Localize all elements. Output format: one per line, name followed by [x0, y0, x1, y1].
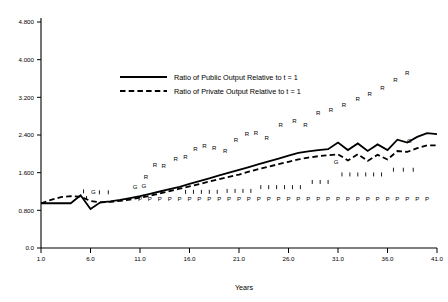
marker-p: P [227, 195, 231, 202]
marker-p: P [237, 195, 241, 202]
marker-r: R [173, 155, 178, 162]
chart-container: 0.00.8001.6002.4003.2004.0004.800 1.06.0… [0, 0, 448, 302]
marker-r: R [405, 69, 410, 76]
marker-g: G [334, 158, 339, 165]
x-axis-tick-label: 11.0 [134, 255, 146, 262]
marker-r: R [303, 121, 308, 128]
marker-r: R [212, 144, 217, 151]
marker-p: P [286, 195, 290, 202]
marker-p: P [296, 195, 300, 202]
marker-p: P [346, 195, 350, 202]
x-axis-tick-label: 1.0 [37, 255, 46, 262]
marker-p: P [425, 195, 429, 202]
marker-p: P [257, 195, 261, 202]
marker-p: P [395, 195, 399, 202]
marker-p: P [197, 195, 201, 202]
marker-r: R [292, 117, 297, 124]
marker-p: P [316, 195, 320, 202]
marker-r: R [393, 76, 398, 83]
marker-r: R [144, 173, 149, 180]
marker-p: P [405, 195, 409, 202]
y-axis-tick-label: 1.600 [19, 169, 35, 176]
marker-p: P [366, 195, 370, 202]
marker-p: P [277, 195, 281, 202]
marker-p: P [385, 195, 389, 202]
marker-r: R [153, 161, 158, 168]
marker-g: G [142, 182, 147, 189]
marker-r: R [254, 129, 259, 136]
marker-r: R [329, 106, 334, 113]
marker-p: P [217, 195, 221, 202]
x-axis-tick-label: 41.0 [431, 255, 444, 262]
marker-r: R [234, 136, 239, 143]
marker-r: R [265, 134, 270, 141]
marker-r: R [380, 84, 385, 91]
marker-g: G [133, 183, 138, 190]
marker-r: R [223, 147, 228, 154]
x-axis-tick-label: 31.0 [332, 255, 345, 262]
marker-p: P [187, 195, 191, 202]
marker-g: G [91, 188, 96, 195]
x-axis-tick-label: 36.0 [381, 255, 394, 262]
y-axis-tick-label: 0.800 [19, 207, 35, 214]
legend-label: Ratio of Private Output Relative to t = … [174, 87, 301, 96]
marker-p: P [356, 195, 360, 202]
x-axis-tick-label: 21.0 [233, 255, 246, 262]
marker-p: P [336, 195, 340, 202]
marker-r: R [162, 162, 167, 169]
marker-p: P [148, 195, 152, 202]
y-axis-tick-label: 4.800 [19, 18, 35, 25]
marker-p: P [415, 195, 419, 202]
marker-r: R [278, 121, 283, 128]
marker-r: R [367, 90, 372, 97]
marker-r: R [193, 145, 198, 152]
marker-p: P [168, 195, 172, 202]
legend-label: Ratio of Public Output Relative to t = 1 [174, 73, 298, 82]
y-axis-tick-label: 2.400 [19, 131, 35, 138]
y-axis-tick-label: 3.200 [19, 94, 35, 101]
marker-p: P [306, 195, 310, 202]
marker-p: P [267, 195, 271, 202]
marker-p: P [376, 195, 380, 202]
x-axis-tick-label: 6.0 [86, 255, 95, 262]
y-axis-tick-label: 0.0 [25, 244, 34, 251]
marker-r: R [245, 130, 250, 137]
marker-p: P [326, 195, 330, 202]
marker-r: R [183, 153, 188, 160]
marker-p: P [178, 195, 182, 202]
marker-r: R [202, 142, 207, 149]
marker-p: P [158, 195, 162, 202]
marker-p: P [207, 195, 211, 202]
marker-r: R [342, 101, 347, 108]
marker-p: P [247, 195, 251, 202]
y-axis-tick-label: 4.000 [19, 56, 35, 63]
x-axis-title: Years [235, 283, 254, 292]
x-axis-tick-label: 16.0 [183, 255, 196, 262]
x-axis-tick-label: 26.0 [282, 255, 295, 262]
marker-r: R [356, 95, 361, 102]
line-chart: 0.00.8001.6002.4003.2004.0004.800 1.06.0… [0, 0, 448, 302]
marker-r: R [316, 109, 321, 116]
